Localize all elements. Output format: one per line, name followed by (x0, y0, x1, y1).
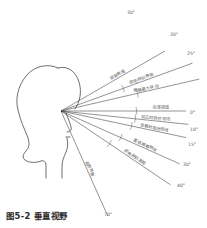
ray-up-20-angle-label: 30° (170, 32, 178, 37)
ray-label-group: 视野界限颜色辨别界限眼睛最大转动标准视线站立时自然视线坐着时自然视线最佳眼睛转动… (84, 68, 170, 178)
ray-standard-text-label: 标准视线 (153, 104, 170, 110)
ray-group (61, 51, 199, 216)
vision-field-diagram: 视野界限颜色辨别界限眼睛最大转动标准视线站立时自然视线坐着时自然视线最佳眼睛转动… (0, 0, 207, 228)
ray-up-30-text-label: 视野界限 (109, 68, 126, 82)
ray-down-10-text-label: 站立时自然视线 (141, 113, 171, 122)
ray-down-40-angle-label: 40° (177, 183, 185, 188)
ray-up-13-text-label: 眼睛最大转动 (133, 82, 159, 93)
ray-down-10-angle-label: 10° (190, 127, 198, 132)
ray-down-70-angle-label: 70° (104, 212, 112, 217)
ray-up-13-angle-label: 25° (187, 51, 195, 56)
head-outline-icon (17, 66, 58, 178)
ray-down-15-text-label: 坐着时自然视线 (140, 121, 170, 133)
ray-up-20-text-label: 颜色辨别界限 (129, 71, 154, 85)
ray-down-40-text-label: 颜色辨别界限 (123, 147, 147, 166)
ray-down-30-angle-label: 30° (183, 162, 191, 167)
ray-up-30 (61, 51, 165, 111)
ray-standard-angle-label: 0° (190, 110, 195, 115)
ray-up-20 (61, 63, 193, 111)
figure-caption: 图5-2 垂直视野 (6, 209, 68, 221)
ray-down-15-angle-label: 15° (188, 142, 196, 147)
ray-up-30-angle-label: 30° (127, 10, 135, 15)
angle-label-group: 30°30°25°0°10°15°30°40°70° (104, 10, 198, 217)
head-crown-icon (58, 67, 80, 109)
ray-down-70-text-label: 视野界限 (84, 160, 96, 178)
ray-down-15 (61, 111, 186, 138)
chin-jaw-icon (62, 138, 68, 178)
diagram-canvas: 视野界限颜色辨别界限眼睛最大转动标准视线站立时自然视线坐着时自然视线最佳眼睛转动… (0, 0, 207, 228)
head-profile (17, 66, 81, 178)
